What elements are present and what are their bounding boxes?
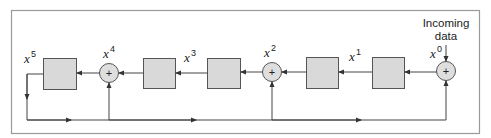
register-box-1: [373, 58, 405, 89]
incoming-label-line2: data: [435, 30, 458, 42]
label-x5: x 5: [23, 49, 36, 66]
label-x0: x 0: [429, 44, 442, 61]
svg-text:x: x: [183, 50, 190, 65]
svg-text:x: x: [348, 49, 355, 64]
feedback-wire-left: [27, 74, 44, 120]
plus-icon: +: [269, 66, 275, 78]
label-x2: x 2: [263, 43, 276, 60]
svg-text:x: x: [429, 46, 436, 61]
adder-x2: +: [263, 63, 282, 82]
svg-text:3: 3: [191, 48, 196, 58]
label-x3: x 3: [183, 48, 196, 65]
svg-text:x: x: [263, 45, 270, 60]
register-box-5: [44, 59, 77, 90]
svg-text:4: 4: [110, 44, 115, 54]
adder-x4: +: [100, 64, 119, 83]
label-x4: x 4: [102, 44, 115, 61]
svg-text:1: 1: [356, 47, 361, 57]
incoming-label-line1: Incoming: [423, 17, 470, 29]
register-box-2: [307, 58, 339, 89]
register-box-3: [208, 59, 241, 89]
label-x1: x 1: [348, 47, 361, 64]
svg-text:5: 5: [31, 49, 36, 59]
adder-x0: +: [437, 62, 456, 81]
lfsr-diagram: + + + Incoming data x 5: [0, 0, 491, 138]
svg-text:x: x: [23, 51, 30, 66]
plus-icon: +: [443, 65, 449, 77]
svg-text:0: 0: [437, 44, 442, 54]
svg-text:x: x: [102, 46, 109, 61]
register-box-4: [144, 59, 176, 89]
plus-icon: +: [106, 67, 112, 79]
svg-text:2: 2: [271, 43, 276, 53]
